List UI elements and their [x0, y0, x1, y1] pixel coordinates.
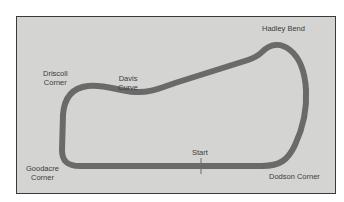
- label-goodacre-corner: Goodacre Corner: [26, 165, 59, 182]
- label-hadley-bend: Hadley Bend: [262, 25, 305, 34]
- track-path: [62, 45, 306, 166]
- label-start: Start: [192, 149, 208, 158]
- label-driscoll-corner: Driscoll Corner: [43, 70, 68, 87]
- label-dodson-corner: Dodson Corner: [269, 173, 320, 182]
- label-davis-curve: Davis Curve: [118, 75, 138, 92]
